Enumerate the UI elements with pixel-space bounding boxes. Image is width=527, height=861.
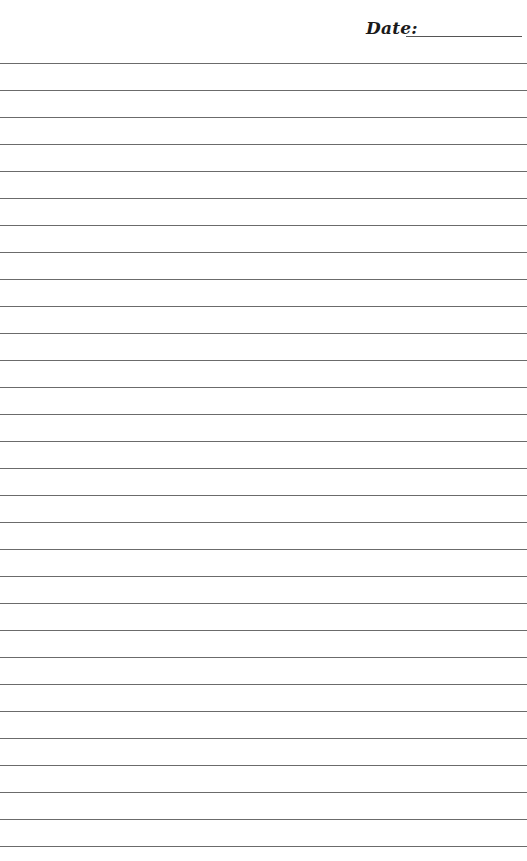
writing-line	[0, 495, 527, 496]
writing-line	[0, 306, 527, 307]
date-field[interactable]	[406, 36, 522, 37]
writing-line	[0, 63, 527, 64]
writing-line	[0, 441, 527, 442]
writing-line	[0, 225, 527, 226]
writing-line	[0, 144, 527, 145]
writing-line	[0, 738, 527, 739]
writing-line	[0, 792, 527, 793]
writing-line	[0, 252, 527, 253]
writing-line	[0, 657, 527, 658]
writing-line	[0, 414, 527, 415]
writing-line	[0, 522, 527, 523]
writing-line	[0, 279, 527, 280]
writing-line	[0, 603, 527, 604]
writing-line	[0, 549, 527, 550]
writing-line	[0, 360, 527, 361]
date-label: Date:	[366, 18, 418, 38]
writing-line	[0, 171, 527, 172]
writing-line	[0, 333, 527, 334]
writing-line	[0, 198, 527, 199]
writing-line	[0, 846, 527, 847]
writing-line	[0, 387, 527, 388]
writing-line	[0, 576, 527, 577]
writing-line	[0, 117, 527, 118]
writing-line	[0, 90, 527, 91]
writing-line	[0, 765, 527, 766]
writing-line	[0, 684, 527, 685]
writing-line	[0, 468, 527, 469]
writing-line	[0, 819, 527, 820]
writing-line	[0, 630, 527, 631]
writing-line	[0, 711, 527, 712]
